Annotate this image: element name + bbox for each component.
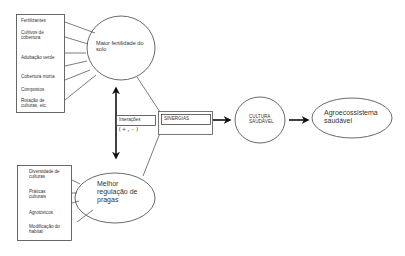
- bottom-factor-item: Agrotóxicos: [29, 210, 69, 215]
- top-factor-item: Cobertura morta: [21, 74, 63, 79]
- top-factor-item: Cultivos de cobertura: [21, 30, 61, 41]
- bottom-factor-item: Modificação do habitat: [29, 224, 69, 235]
- interactions-label: Interações: [119, 117, 140, 122]
- top-factor-item: Adubação verde: [21, 55, 63, 60]
- bottom-ellipse-label: Melhor regulação de pragas: [97, 180, 141, 204]
- top-factor-item: Fertilizantes: [21, 18, 63, 23]
- agroecosystem-label: Agroecossistema saudável: [324, 109, 384, 125]
- top-ellipse-label: Maior fertilidade do solo: [96, 40, 152, 53]
- top-factor-item: Compostos: [21, 87, 63, 92]
- culture-label: CULTURA SAUDÁVEL: [249, 114, 275, 125]
- top-connectors: [65, 22, 96, 100]
- bottom-factor-item: Práticas culturais: [29, 189, 59, 200]
- bottom-factor-item: Diversidade de culturas: [29, 169, 69, 180]
- top-factor-item: Rotação de culturas, etc.: [21, 98, 57, 109]
- interactions-sign: (+,-): [118, 126, 140, 132]
- synergy-label: SINERGIAS: [164, 116, 189, 121]
